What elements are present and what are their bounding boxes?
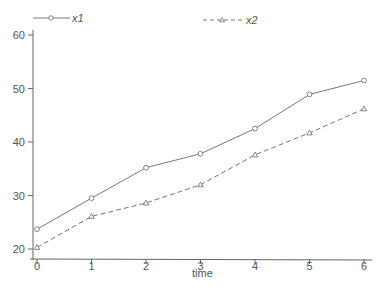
triangle-marker-icon [198,182,203,187]
y-tick-label: 30 [13,190,25,202]
triangle-marker-icon [361,106,366,111]
circle-marker-icon [307,92,312,97]
series-line [37,109,364,248]
x-tick-label: 5 [306,260,312,272]
y-tick-label: 20 [13,243,25,255]
y-tick-label: 60 [13,29,25,41]
circle-marker-icon [198,151,203,156]
y-axis: 2030405060 [13,29,33,260]
circle-marker-icon [253,126,258,131]
triangle-marker-icon [34,245,39,250]
x-axis: 0123456 time [30,259,372,279]
circle-marker-icon [49,16,53,20]
x-tick-label: 1 [88,260,94,272]
circle-marker-icon [89,196,94,201]
x-tick-label: 6 [361,260,367,272]
x-axis-title: time [192,267,213,279]
circle-marker-icon [35,227,40,232]
series-x2 [34,106,366,249]
series-x1 [35,78,367,232]
legend: x1 x2 [33,12,258,26]
legend-item-x2: x2 [203,14,258,26]
y-tick-label: 40 [13,136,25,148]
x-tick-label: 0 [34,260,40,272]
legend-label-x1: x1 [71,12,84,24]
circle-marker-icon [362,78,367,83]
triangle-marker-icon [220,18,225,22]
legend-label-x2: x2 [245,14,258,26]
line-chart: x1 x2 2030405060 0123456 time [0,0,380,295]
plot-area [34,78,366,249]
legend-item-x1: x1 [33,12,84,24]
circle-marker-icon [144,165,149,170]
y-tick-label: 50 [13,83,25,95]
x-tick-label: 4 [252,260,258,272]
x-tick-label: 2 [143,260,149,272]
